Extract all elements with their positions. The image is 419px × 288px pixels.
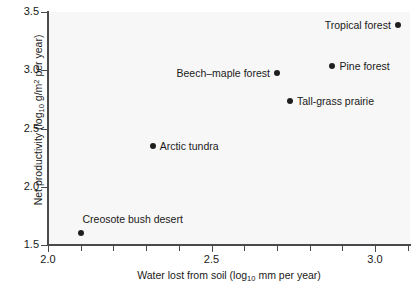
x-axis-tick-major	[375, 246, 376, 252]
x-axis-tick-minor	[310, 246, 311, 251]
data-point[interactable]	[274, 70, 280, 76]
x-axis-tick-minor	[81, 246, 82, 251]
data-point-label: Arctic tundra	[160, 140, 219, 152]
data-point-label: Tropical forest	[325, 19, 391, 31]
x-axis-tick-minor	[408, 246, 409, 251]
data-point[interactable]	[150, 143, 156, 149]
x-axis-tick-minor	[244, 246, 245, 251]
x-axis-tick-minor	[146, 246, 147, 251]
x-axis-title: Water lost from soil (log10 mm per year)	[48, 269, 410, 283]
data-point-label: Beech–maple forest	[177, 67, 270, 79]
x-axis-tick-label: 2.0	[40, 253, 55, 265]
x-axis-tick-label: 2.5	[204, 253, 219, 265]
scatter-chart-figure: 1.52.02.53.03.5 2.02.53.0 Creosote bush …	[0, 0, 419, 288]
y-axis-title: Net productivity (log10 g/m2 per year)	[32, 0, 46, 240]
plot-area	[48, 12, 410, 245]
data-point-label: Tall-grass prairie	[297, 95, 374, 107]
data-point[interactable]	[395, 22, 401, 28]
y-axis-spine	[47, 11, 49, 246]
x-axis-tick-minor	[179, 246, 180, 251]
data-point-label: Pine forest	[339, 60, 389, 72]
x-axis-tick-major	[48, 246, 49, 252]
x-axis-tick-minor	[342, 246, 343, 251]
x-axis-title-text: Water lost from soil (log10 mm per year)	[137, 269, 321, 281]
x-axis-tick-major	[212, 246, 213, 252]
x-axis-tick-minor	[113, 246, 114, 251]
y-axis-title-text: Net productivity (log10 g/m2 per year)	[32, 35, 44, 206]
y-axis-tick	[41, 245, 47, 246]
x-axis-tick-label: 3.0	[367, 253, 382, 265]
data-point-label: Creosote bush desert	[82, 213, 182, 225]
x-axis-spine	[47, 244, 411, 246]
data-point[interactable]	[287, 98, 293, 104]
x-axis-tick-minor	[277, 246, 278, 251]
